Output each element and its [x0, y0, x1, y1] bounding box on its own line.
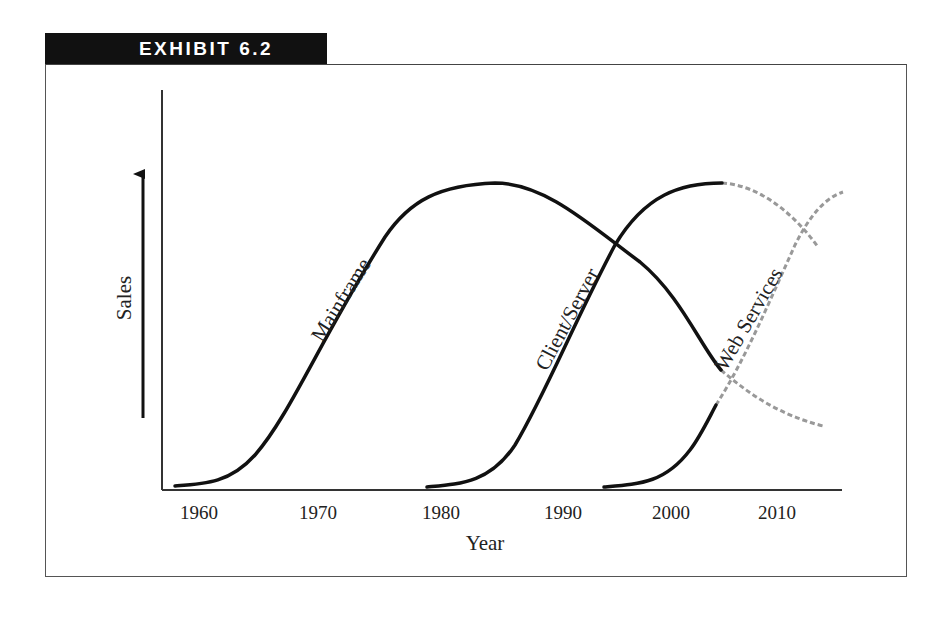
y-axis-label: Sales	[112, 276, 136, 320]
mainframe-label: Mainframe	[306, 254, 376, 346]
s-curve-chart: Mainframe Client/Server Web Services Sal…	[0, 0, 948, 618]
web-services-projection	[716, 192, 843, 405]
client-server-curve	[427, 183, 722, 487]
x-tick: 1980	[422, 502, 460, 523]
x-tick: 1960	[180, 502, 218, 523]
client-server-label: Client/Server	[530, 264, 604, 374]
client-server-projection	[722, 183, 818, 247]
x-tick: 2000	[652, 502, 690, 523]
web-services-label: Web Services	[710, 263, 788, 374]
projection-lines	[716, 183, 843, 426]
x-tick: 2010	[758, 502, 796, 523]
x-tick: 1990	[544, 502, 582, 523]
x-axis-label: Year	[466, 531, 505, 555]
mainframe-curve	[175, 183, 721, 486]
x-tick: 1970	[299, 502, 337, 523]
mainframe-projection	[721, 370, 823, 426]
web-services-curve	[604, 405, 716, 487]
